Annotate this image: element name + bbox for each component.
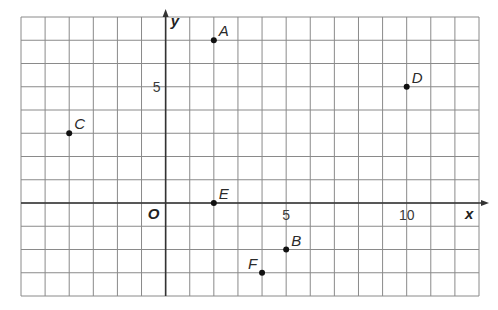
tick-labels: 5105 xyxy=(153,79,415,223)
point-label: C xyxy=(74,115,85,132)
point-dot-icon xyxy=(211,37,217,43)
axes: x y O xyxy=(21,9,489,296)
x-tick-label: 5 xyxy=(282,207,290,223)
point-dot-icon xyxy=(66,130,72,136)
point-label: A xyxy=(218,22,229,39)
point-label: B xyxy=(291,232,301,249)
x-axis-label: x xyxy=(464,205,474,222)
points: ABCDEF xyxy=(66,22,422,276)
point-label: D xyxy=(412,69,423,86)
coordinate-plane: x y O 5105 ABCDEF xyxy=(0,0,498,310)
point-dot-icon xyxy=(259,270,265,276)
y-axis-label: y xyxy=(170,12,180,29)
point-dot-icon xyxy=(211,200,217,206)
origin-label: O xyxy=(148,205,160,222)
y-axis-arrow-icon xyxy=(163,9,169,17)
point-label: E xyxy=(219,185,230,202)
x-axis-arrow-icon xyxy=(481,200,489,206)
point-label: F xyxy=(248,255,258,272)
point-dot-icon xyxy=(404,84,410,90)
y-tick-label: 5 xyxy=(153,79,161,95)
point-dot-icon xyxy=(283,247,289,253)
x-tick-label: 10 xyxy=(399,207,415,223)
